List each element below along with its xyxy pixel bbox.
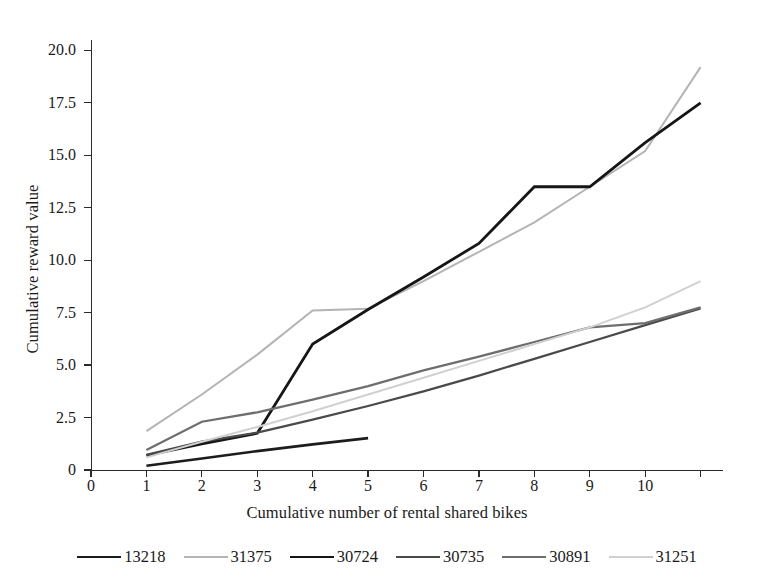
legend-item-31251[interactable]: 31251 [609, 549, 697, 566]
y-tick [84, 364, 91, 365]
legend-swatch-icon [184, 556, 228, 558]
chart-legend: 132183137530724307353089131251 [0, 549, 774, 566]
x-tick-label: 1 [131, 478, 161, 494]
x-tick-label: 5 [353, 478, 383, 494]
legend-swatch-icon [502, 556, 546, 558]
x-axis-title: Cumulative number of rental shared bikes [0, 503, 774, 523]
x-tick-label: 4 [298, 478, 328, 494]
y-tick-label: 2.5 [30, 410, 76, 426]
legend-swatch-icon [77, 556, 121, 558]
series-line-30735 [146, 308, 700, 454]
legend-item-31375[interactable]: 31375 [184, 549, 272, 566]
y-tick [84, 207, 91, 208]
legend-item-30724[interactable]: 30724 [290, 549, 378, 566]
series-line-30724 [146, 103, 700, 456]
x-tick-label: 0 [76, 478, 106, 494]
x-tick [257, 470, 258, 477]
x-tick-label: 2 [187, 478, 217, 494]
x-tick [645, 470, 646, 477]
legend-label: 30891 [549, 549, 590, 566]
y-tick-label: 5.0 [30, 357, 76, 373]
legend-item-13218[interactable]: 13218 [77, 549, 165, 566]
y-tick-label: 20.0 [30, 42, 76, 58]
x-tick [90, 470, 91, 477]
legend-label: 13218 [124, 549, 165, 566]
legend-swatch-icon [396, 556, 440, 558]
legend-label: 30735 [443, 549, 484, 566]
series-line-13218 [146, 438, 368, 466]
y-tick [84, 312, 91, 313]
x-axis-line [88, 470, 723, 471]
series-line-31375 [146, 67, 700, 431]
y-tick [84, 50, 91, 51]
y-axis-line [91, 40, 92, 473]
y-tick [84, 102, 91, 103]
x-tick-label: 6 [409, 478, 439, 494]
y-tick-label: 10.0 [30, 252, 76, 268]
x-tick [367, 470, 368, 477]
y-tick [84, 155, 91, 156]
y-tick-label: 15.0 [30, 147, 76, 163]
series-line-31251 [146, 281, 700, 457]
chart-root: Cumulative reward value Cumulative numbe… [0, 0, 774, 587]
x-tick-label: 8 [519, 478, 549, 494]
x-tick-label: 7 [464, 478, 494, 494]
y-tick-label: 7.5 [30, 305, 76, 321]
legend-swatch-icon [609, 556, 653, 558]
x-tick [700, 470, 701, 477]
y-tick-label: 12.5 [30, 200, 76, 216]
y-tick-label: 0 [30, 462, 76, 478]
x-tick [478, 470, 479, 477]
legend-label: 30724 [337, 549, 378, 566]
x-tick-label: 9 [575, 478, 605, 494]
x-tick-label: 10 [630, 478, 660, 494]
x-tick [146, 470, 147, 477]
legend-item-30735[interactable]: 30735 [396, 549, 484, 566]
series-lines [0, 0, 774, 587]
y-tick-label: 17.5 [30, 95, 76, 111]
x-tick [589, 470, 590, 477]
y-tick [84, 260, 91, 261]
x-tick [312, 470, 313, 477]
x-tick-label: 3 [242, 478, 272, 494]
y-tick [84, 417, 91, 418]
legend-item-30891[interactable]: 30891 [502, 549, 590, 566]
legend-label: 31375 [231, 549, 272, 566]
legend-swatch-icon [290, 556, 334, 558]
legend-label: 31251 [656, 549, 697, 566]
x-tick [534, 470, 535, 477]
series-line-30891 [146, 307, 700, 450]
x-tick [423, 470, 424, 477]
x-tick [201, 470, 202, 477]
